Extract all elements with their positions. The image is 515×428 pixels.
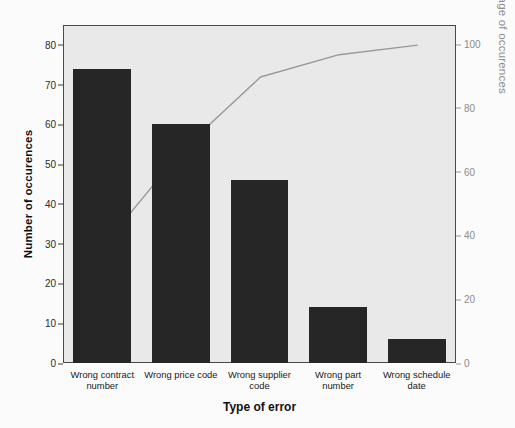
bar-0 <box>73 69 131 363</box>
x-axis-label-2: Wrong supplier code <box>220 369 299 391</box>
y-axis-left-tick-80: 80 <box>17 39 63 50</box>
x-axis-title: Type of error <box>63 400 456 414</box>
x-axis-label-3: Wrong part number <box>299 369 378 391</box>
y-axis-right-tick-80: 80 <box>456 102 496 113</box>
y-axis-right-tick-40: 40 <box>456 230 496 241</box>
y-axis-left-tick-70: 70 <box>17 79 63 90</box>
x-axis-label-1: Wrong price code <box>142 369 221 380</box>
bar-4 <box>388 339 446 363</box>
bar-3 <box>309 307 367 363</box>
x-axis-label-0: Wrong contract number <box>63 369 142 391</box>
y-axis-left-tick-30: 30 <box>17 238 63 249</box>
bar-1 <box>152 124 210 363</box>
y-axis-left-tick-20: 20 <box>17 278 63 289</box>
y-axis-right-tick-60: 60 <box>456 166 496 177</box>
y-axis-left-tick-0: 0 <box>17 358 63 369</box>
x-axis-label-4: Wrong schedule date <box>377 369 456 391</box>
y-axis-right-title: Cumulative percentage of occurences <box>497 0 509 94</box>
y-axis-right-tick-0: 0 <box>456 358 496 369</box>
bar-2 <box>231 180 289 363</box>
chart-canvas: Number of occurences Cumulative percenta… <box>0 0 515 428</box>
y-axis-right-tick-100: 100 <box>456 39 496 50</box>
y-axis-left-tick-10: 10 <box>17 318 63 329</box>
y-axis-left-tick-40: 40 <box>17 198 63 209</box>
y-axis-right-tick-20: 20 <box>456 294 496 305</box>
y-axis-left-tick-60: 60 <box>17 119 63 130</box>
y-axis-left-tick-50: 50 <box>17 159 63 170</box>
